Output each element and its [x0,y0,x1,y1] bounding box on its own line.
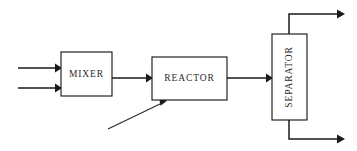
stream-separator-overhead-line [289,14,337,34]
stream-separator-overhead-arrowhead [337,10,345,19]
unit-reactor-label: REACTOR [164,73,214,83]
stream-mixer-to-reactor [112,74,153,83]
stream-feed-1 [18,64,62,73]
stream-side-feed-to-reactor [108,99,167,129]
stream-feed-2 [18,84,62,93]
stream-reactor-to-separator [227,74,273,83]
unit-separator[interactable]: SEPARATOR [272,34,307,120]
flow-diagram-canvas: MIXER REACTOR SEPARATOR [0,0,357,151]
stream-separator-bottoms-line [289,120,337,139]
stream-separator-overhead [289,10,345,35]
unit-reactor[interactable]: REACTOR [152,57,227,100]
unit-mixer-label: MIXER [69,69,104,79]
stream-side-feed-line [108,104,161,130]
unit-mixer[interactable]: MIXER [61,52,112,96]
process-flow-diagram: MIXER REACTOR SEPARATOR [0,0,357,151]
stream-separator-bottoms [289,120,345,144]
unit-separator-label: SEPARATOR [284,46,294,107]
stream-separator-bottoms-arrowhead [337,135,345,144]
